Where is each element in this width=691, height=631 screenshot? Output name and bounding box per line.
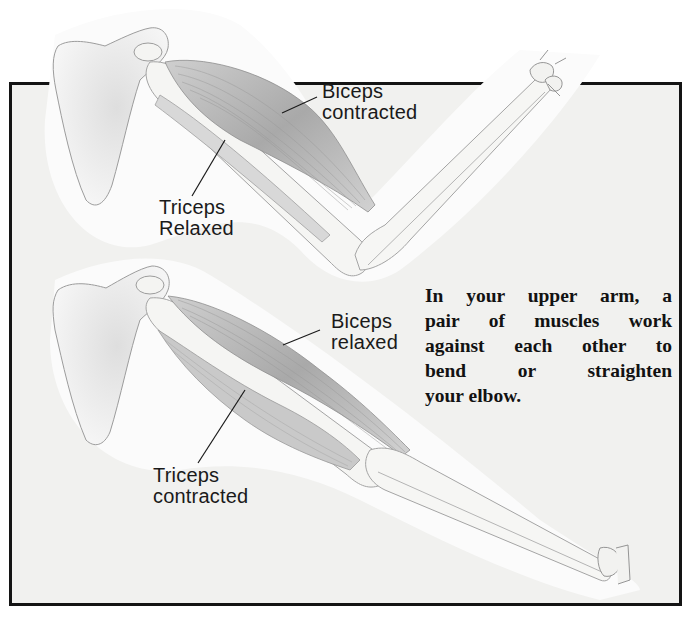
caption-line: In your upper arm, a	[425, 283, 672, 308]
label-biceps-relaxed: Biceps relaxed	[331, 311, 398, 353]
caption-line: pair of muscles work	[425, 308, 672, 333]
label-triceps-contracted: Triceps contracted	[153, 465, 248, 507]
flexed-arm	[45, 9, 600, 282]
label-biceps-contracted: Biceps contracted	[322, 81, 417, 123]
caption-line: bend or straighten	[425, 358, 672, 383]
caption-paragraph: In your upper arm, a pair of muscles wor…	[425, 283, 672, 408]
caption-line: your elbow.	[425, 383, 672, 408]
caption-line: against each other to	[425, 333, 672, 358]
label-triceps-relaxed: Triceps Relaxed	[159, 197, 234, 239]
